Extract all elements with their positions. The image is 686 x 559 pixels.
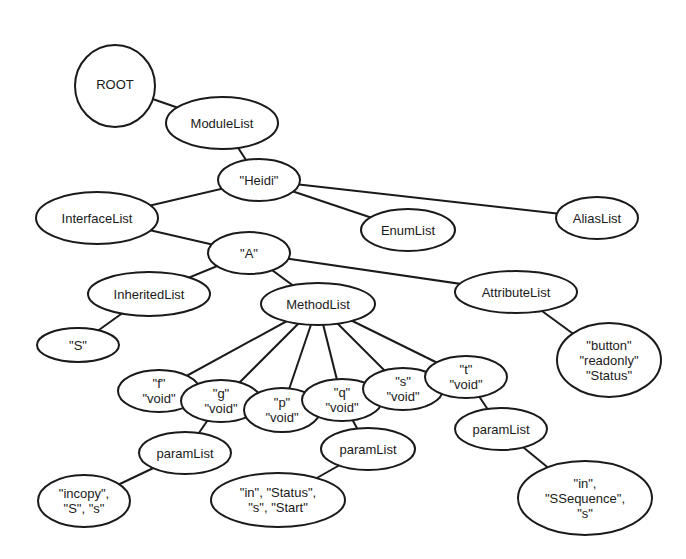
node-label: "s"	[577, 506, 593, 521]
node-label: "void"	[265, 410, 298, 425]
node-modulelist: ModuleList	[166, 97, 278, 149]
node-interfacelist: InterfaceList	[36, 192, 158, 244]
node-label: paramList	[339, 442, 396, 457]
node-aliaslist: AliasList	[556, 197, 638, 239]
node-param_q: "in", "Status","s", "Start"	[211, 473, 345, 527]
node-label: "p"	[274, 395, 291, 410]
node-label: "void"	[449, 377, 482, 392]
tree-diagram: ROOTModuleList"Heidi"InterfaceListEnumLi…	[0, 0, 686, 559]
node-label: "q"	[334, 385, 351, 400]
node-root: ROOT	[75, 45, 155, 127]
node-label: ModuleList	[191, 116, 254, 131]
node-label: MethodList	[286, 297, 350, 312]
node-label: "Status"	[586, 368, 632, 383]
node-attributelist: AttributeList	[455, 271, 577, 313]
node-label: "f"	[153, 376, 166, 391]
node-label: "s", "Start"	[248, 500, 308, 515]
node-m_t: "t""void"	[425, 356, 507, 398]
node-label: "button"	[586, 338, 632, 353]
node-label: "S", "s"	[64, 501, 105, 516]
node-label: InterfaceList	[62, 211, 133, 226]
node-label: ROOT	[96, 77, 134, 92]
node-label: "t"	[460, 362, 473, 377]
node-layer: ROOTModuleList"Heidi"InterfaceListEnumLi…	[36, 45, 661, 535]
node-label: "A"	[240, 246, 258, 261]
node-enumlist: EnumList	[361, 209, 455, 251]
node-param_g: "incopy","S", "s"	[38, 475, 130, 527]
node-label: "void"	[386, 389, 419, 404]
node-label: "in", "Status",	[240, 485, 316, 500]
node-label: "incopy",	[59, 486, 109, 501]
node-label: "S"	[69, 338, 87, 353]
node-a: "A"	[208, 232, 290, 274]
node-s_inherited: "S"	[37, 328, 119, 362]
node-paramlist_g: paramList	[139, 432, 231, 474]
node-label: "void"	[325, 400, 358, 415]
node-label: "s"	[395, 374, 411, 389]
node-param_t: "in","SSequence","s"	[518, 461, 652, 535]
node-paramlist_t: paramList	[455, 408, 547, 450]
node-attr_button: "button""readonly""Status"	[557, 323, 661, 397]
node-label: "void"	[142, 391, 175, 406]
node-label: "void"	[204, 401, 237, 416]
node-label: "in",	[574, 476, 597, 491]
node-label: InheritedList	[114, 287, 185, 302]
node-label: "Heidi"	[240, 173, 279, 188]
node-paramlist_q: paramList	[321, 428, 415, 470]
node-label: paramList	[156, 446, 213, 461]
node-heidi: "Heidi"	[218, 159, 300, 201]
node-label: "SSequence",	[545, 491, 625, 506]
node-label: paramList	[472, 422, 529, 437]
node-label: "g"	[213, 386, 230, 401]
node-methodlist: MethodList	[261, 283, 375, 325]
node-label: EnumList	[381, 223, 436, 238]
node-label: AttributeList	[482, 285, 551, 300]
node-inheritedlist: InheritedList	[88, 272, 210, 316]
node-label: "readonly"	[579, 353, 638, 368]
node-label: AliasList	[573, 211, 622, 226]
